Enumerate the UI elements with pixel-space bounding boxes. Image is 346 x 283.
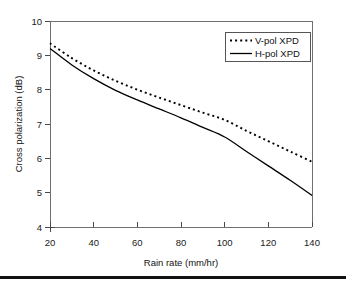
legend-label-h-pol-xpd: H-pol XPD	[255, 48, 300, 59]
x-tick-label-140: 140	[304, 237, 320, 248]
x-tick-label-40: 40	[88, 237, 99, 248]
footer-divider-rule	[0, 276, 346, 279]
y-tick-label-9: 9	[37, 50, 42, 61]
y-tick-label-8: 8	[37, 84, 42, 95]
figure-container: 10 9 8 7 6 5 4 20 40 60 80 100 120 140	[0, 0, 346, 283]
cross-polarization-line-chart: 10 9 8 7 6 5 4 20 40 60 80 100 120 140	[0, 0, 346, 283]
x-tick-label-80: 80	[176, 237, 187, 248]
x-tick-label-100: 100	[217, 237, 233, 248]
y-tick-label-5: 5	[37, 187, 42, 198]
y-tick-label-7: 7	[37, 119, 42, 130]
x-tick-label-120: 120	[260, 237, 276, 248]
y-tick-label-6: 6	[37, 153, 42, 164]
x-tick-label-60: 60	[132, 237, 143, 248]
legend[interactable]: V-pol XPD H-pol XPD	[226, 33, 311, 62]
x-axis-title: Rain rate (mm/hr)	[144, 257, 218, 268]
y-tick-label-10: 10	[31, 16, 42, 27]
y-axis-title: Cross polarization (dB)	[13, 76, 24, 173]
legend-label-v-pol-xpd: V-pol XPD	[255, 35, 299, 46]
x-tick-label-20: 20	[45, 237, 56, 248]
y-tick-label-4: 4	[37, 222, 42, 233]
